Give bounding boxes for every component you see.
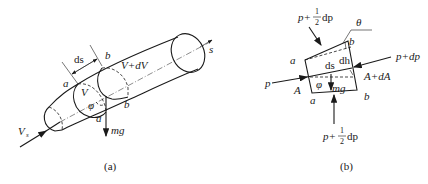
a-bottom-label: a [310,94,316,106]
area-a-label: A [293,84,301,96]
section-b-top-label: b [105,49,111,61]
right-pressure-arrow [354,57,391,67]
svg-text:dp: dp [322,11,334,23]
svg-text:2: 2 [340,137,344,146]
top-pressure-arrow [309,27,321,45]
section-a-bottom-label: a [96,112,102,124]
ds-label: ds [74,53,84,65]
b-top-label: b [349,35,355,47]
svg-text:1: 1 [340,126,344,135]
figure-a: s V s ds a a b b V V+dV φ mg (a) [18,28,213,173]
tube-bottom-edge [62,69,198,130]
phi-label: φ [88,99,94,111]
area-a-da-label: A+dA [363,70,391,82]
left-pressure-label: p [264,77,271,89]
inlet-velocity-subscript: s [26,131,29,139]
theta-label: θ [356,16,362,28]
section-b-bottom-label: b [124,98,130,110]
axis-s-label: s [209,43,213,55]
weight-label: mg [111,124,125,136]
svg-text:2: 2 [315,18,319,27]
caption-b: (b) [340,160,353,173]
b-bottom-label: b [364,90,370,102]
svg-text:1: 1 [315,7,319,16]
dh-marker [350,70,353,75]
inlet-velocity-label: V [18,125,26,137]
volume-v-dv-label: V+dV [121,59,149,71]
outlet-ellipse [165,28,211,78]
ds-label-b: ds [325,59,335,71]
svg-text:p+: p+ [322,130,336,142]
right-pressure-label: p+dp [395,50,420,62]
top-tick [345,42,346,49]
ds-extension-b [90,45,102,66]
phi-angle-arc [96,102,105,105]
section-b-ellipse-hidden [102,68,128,97]
svg-text:dp: dp [347,130,359,142]
phi-label-b: φ [316,78,322,90]
top-pressure-label: p+ 1 2 dp [297,7,334,27]
bottom-pressure-label: p+ 1 2 dp [322,126,359,146]
section-a-top-label: a [63,77,69,89]
volume-v-label: V [81,86,89,98]
caption-a: (a) [104,160,117,173]
svg-text:p+: p+ [297,11,311,23]
a-top-label: a [290,54,296,66]
tube-top-edge [49,37,178,107]
section-b-ellipse [98,68,128,99]
dh-label: dh [339,54,351,66]
inlet-ellipse [44,107,62,131]
inlet-ellipse-hidden [49,107,62,130]
axis-line-left [272,77,307,83]
figure-b: θ p+ 1 2 dp p+ 1 2 dp p p+dp [264,7,420,173]
weight-label-b: mg [332,82,346,94]
